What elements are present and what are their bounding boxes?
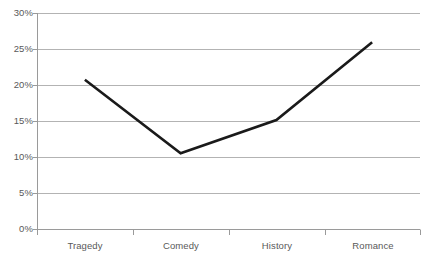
x-tick-label-history: History [229,240,325,251]
y-axis [33,13,38,230]
y-tick-label-15: 15% [3,116,33,126]
x-axis [37,230,421,236]
x-tick-label-romance: Romance [325,240,421,251]
y-tick-label-25: 25% [3,44,33,54]
gridlines [37,14,420,194]
line-chart: 30% 25% 20% 15% 10% 5% 0% Tragedy Comedy… [0,0,431,259]
y-tick-label-5: 5% [3,188,33,198]
data-series-line [85,42,372,153]
x-tick-label-tragedy: Tragedy [37,240,133,251]
x-tick-label-comedy: Comedy [133,240,229,251]
y-tick-labels: 30% 25% 20% 15% 10% 5% 0% [0,0,33,259]
y-tick-label-20: 20% [3,80,33,90]
plot-area [0,0,431,259]
y-tick-label-0: 0% [3,224,33,234]
y-tick-label-10: 10% [3,152,33,162]
y-tick-label-30: 30% [3,8,33,18]
